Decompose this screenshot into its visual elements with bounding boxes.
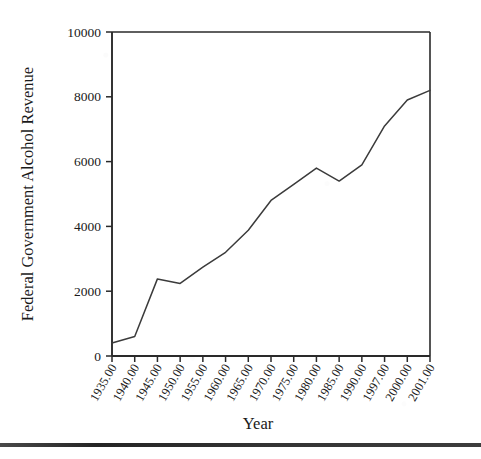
x-axis-title: Year [243, 414, 274, 433]
page-footer-rule [0, 443, 481, 447]
plot-frame [112, 32, 430, 356]
y-tick-label: 8000 [74, 89, 101, 104]
y-axis-title: Federal Government Alcohol Revenue [18, 67, 37, 321]
x-axis-tick-labels: 1935.001940.001945.001950.001955.001960.… [87, 362, 437, 404]
revenue-data-line [112, 90, 430, 343]
y-tick-label: 0 [94, 349, 101, 364]
y-tick-label: 2000 [74, 284, 101, 299]
chart-figure: 0200040006000800010000 1935.001940.00194… [0, 0, 481, 459]
y-tick-label: 10000 [67, 25, 101, 40]
y-tick-label: 6000 [74, 154, 101, 169]
y-axis-tick-labels: 0200040006000800010000 [67, 25, 101, 364]
y-tick-label: 4000 [74, 219, 101, 234]
alcohol-revenue-line-chart: 0200040006000800010000 1935.001940.00194… [0, 0, 481, 459]
